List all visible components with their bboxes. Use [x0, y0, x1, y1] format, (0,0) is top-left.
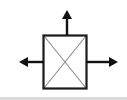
figure-background — [0, 0, 127, 100]
bottom-shadow-band — [0, 97, 127, 100]
square-arrows-figure — [0, 0, 127, 100]
diagram-canvas — [0, 0, 127, 100]
